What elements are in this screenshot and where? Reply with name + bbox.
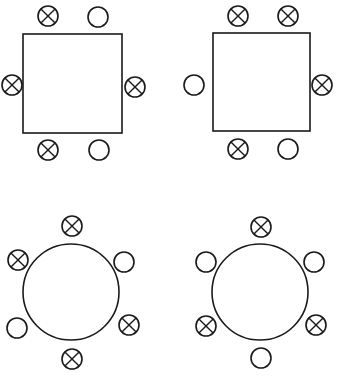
empty-seat-lower-left[interactable]: [7, 318, 27, 338]
empty-seat-bottom-right[interactable]: [89, 140, 109, 160]
occupied-seat-right[interactable]: [125, 77, 145, 97]
round-table-shape: [212, 244, 308, 340]
occupied-seat-bottom[interactable]: [62, 349, 82, 369]
seat-circle-icon: [196, 252, 216, 272]
seat-circle-icon: [184, 75, 204, 95]
diagram-bottom-right: [196, 217, 326, 368]
seat-circle-icon: [304, 252, 324, 272]
occupied-seat-top-left[interactable]: [38, 6, 58, 26]
occupied-seat-lower-left[interactable]: [196, 316, 216, 336]
diagram-top-left: [2, 6, 145, 160]
empty-seat-upper-right[interactable]: [304, 252, 324, 272]
occupied-seat-bottom-left[interactable]: [38, 140, 58, 160]
occupied-seat-left[interactable]: [2, 75, 22, 95]
occupied-seat-upper-left[interactable]: [8, 250, 28, 270]
square-table-shape: [23, 34, 122, 133]
occupied-seat-top[interactable]: [62, 216, 82, 236]
seat-circle-icon: [114, 252, 134, 272]
occupied-seat-top-right[interactable]: [278, 6, 298, 26]
empty-seat-bottom[interactable]: [251, 348, 271, 368]
occupied-seat-top-left[interactable]: [228, 6, 248, 26]
empty-seat-top-right[interactable]: [88, 7, 108, 27]
empty-seat-left[interactable]: [184, 75, 204, 95]
occupied-seat-top[interactable]: [251, 217, 271, 237]
seat-circle-icon: [278, 139, 298, 159]
seating-diagram-canvas: [0, 0, 339, 377]
square-table-shape: [213, 33, 310, 131]
occupied-seat-lower-right[interactable]: [306, 315, 326, 335]
diagram-top-right: [184, 6, 332, 159]
empty-seat-upper-left[interactable]: [196, 252, 216, 272]
empty-seat-upper-right[interactable]: [114, 252, 134, 272]
empty-seat-bottom-right[interactable]: [278, 139, 298, 159]
occupied-seat-bottom-left[interactable]: [228, 139, 248, 159]
seat-circle-icon: [89, 140, 109, 160]
figure-root: [0, 0, 339, 377]
seat-circle-icon: [7, 318, 27, 338]
occupied-seat-right[interactable]: [312, 75, 332, 95]
round-table-shape: [23, 244, 119, 340]
seat-circle-icon: [251, 348, 271, 368]
seat-circle-icon: [88, 7, 108, 27]
diagram-bottom-left: [7, 216, 139, 369]
occupied-seat-lower-right[interactable]: [119, 315, 139, 335]
